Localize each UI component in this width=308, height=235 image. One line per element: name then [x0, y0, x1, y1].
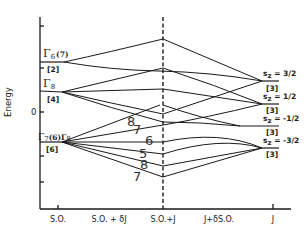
- gamma8-degeneracy: [4]: [47, 95, 59, 104]
- x-label-so: S.O.: [50, 215, 66, 224]
- branch-number: 7: [133, 169, 141, 184]
- x-label-so-j: S.O.+J: [150, 215, 175, 224]
- x-label-so-dj: S.O. + δJ: [91, 215, 126, 224]
- x-axis-labels: S.O. S.O. + δJ S.O.+J J+δS.O. J: [50, 215, 274, 224]
- sz-minus-3-2-label: sz = -3/2: [263, 136, 299, 147]
- sz-minus-3-2-degeneracy: [3]: [266, 150, 278, 159]
- branch-numbers: 8 7 6 5 8 7: [127, 114, 153, 184]
- sz-3-2-label: sz = 3/2: [263, 69, 296, 80]
- gamma8-label: Γ8: [43, 77, 55, 91]
- y-zero-label: 0: [31, 107, 36, 117]
- gamma7-gamma8-label: Γ7(6)Γ8: [38, 132, 71, 143]
- energy-level-diagram: 8 7 6 5 8 7 Energy 0 Γ6(7) [2] Γ8 [4] Γ7…: [0, 0, 308, 235]
- x-label-j-dso: J+δS.O.: [203, 215, 234, 224]
- gamma7-gamma8-degeneracy: [6]: [46, 145, 58, 154]
- branch-number: 7: [133, 122, 141, 137]
- gamma6-degeneracy: [2]: [47, 65, 59, 74]
- x-label-j: J: [271, 215, 274, 224]
- sz-minus-1-2-label: sz = -1/2: [263, 114, 299, 125]
- correlation-lines-right: [158, 39, 262, 177]
- sz-1-2-label: sz = 1/2: [263, 92, 296, 103]
- right-level-labels: sz = 3/2 [3] sz = 1/2 [3] sz = -1/2 [3] …: [263, 69, 299, 159]
- y-axis-label: Energy: [3, 87, 13, 117]
- left-level-labels: Γ6(7) [2] Γ8 [4] Γ7(6)Γ8 [6]: [38, 47, 71, 154]
- gamma6-label: Γ6(7): [43, 47, 68, 61]
